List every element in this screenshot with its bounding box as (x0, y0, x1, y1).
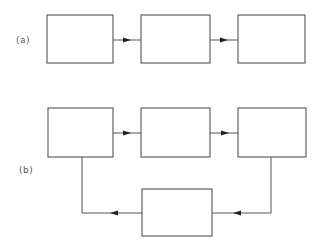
arrowhead-right-icon (220, 38, 228, 43)
arrowhead-left-icon (233, 211, 241, 216)
arrow-a2-a3 (210, 38, 238, 43)
arrowhead-right-icon (221, 131, 229, 136)
arrowhead-left-icon (110, 211, 118, 216)
box-b4 (142, 189, 212, 236)
arrow-b1-b2 (113, 131, 141, 136)
box-b3 (238, 108, 306, 157)
box-b2 (141, 108, 210, 157)
box-a2 (141, 15, 210, 63)
box-b1 (48, 108, 113, 157)
box-a3 (238, 15, 305, 63)
arrowhead-right-icon (123, 131, 131, 136)
panel-a-label: (a) (16, 35, 30, 45)
arrow-b3-b4 (212, 157, 271, 216)
panel-a (47, 15, 305, 63)
panel-b-label: (b) (19, 165, 33, 175)
arrow-b4-b1 (82, 157, 142, 216)
arrow-a1-a2 (113, 38, 141, 43)
arrow-b2-b3 (210, 131, 238, 136)
box-a1 (47, 15, 113, 63)
block-diagram (0, 0, 322, 250)
panel-b (48, 108, 306, 236)
arrowhead-right-icon (123, 38, 131, 43)
